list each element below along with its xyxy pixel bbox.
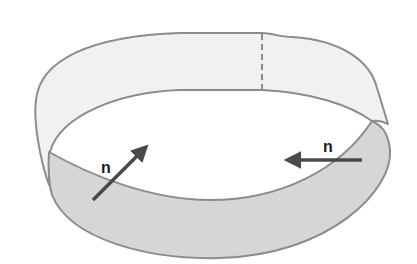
mobius-strip-diagram: n n bbox=[0, 0, 417, 264]
lower-band bbox=[49, 121, 390, 258]
normal-label-left: n bbox=[101, 159, 111, 176]
normal-label-right: n bbox=[323, 138, 333, 155]
